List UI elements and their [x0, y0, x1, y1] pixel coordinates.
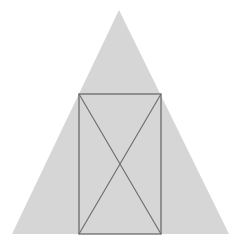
geometry-diagram — [0, 0, 239, 247]
triangle — [12, 10, 229, 234]
